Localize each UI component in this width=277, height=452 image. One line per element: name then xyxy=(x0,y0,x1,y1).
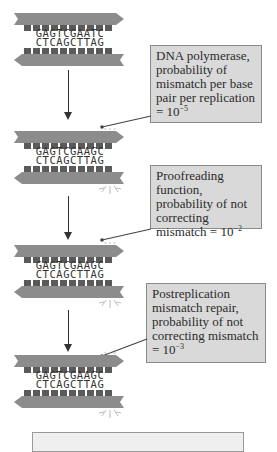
callout-proofreading: Proofreading function, probability of no… xyxy=(150,165,262,229)
callout-exponent: −5 xyxy=(180,104,189,113)
arrowhead-icon xyxy=(64,344,72,352)
flow-arrow-3 xyxy=(68,310,69,346)
arrowhead-icon xyxy=(64,232,72,240)
dna-duplex-original: GAGTCGAATC CTCAGCTTAG xyxy=(14,10,124,66)
callout-dna-polymerase: DNA polymerase, probability of mismatch … xyxy=(150,45,262,123)
dna-duplex-after-replication: GAGTCGAAGC CTCAGCTTAG xyxy=(14,128,124,184)
callout-text: DNA polymerase, probability of mismatch … xyxy=(156,48,255,119)
callout-mismatch-repair: Postreplication mismatch repair, probabi… xyxy=(146,283,266,363)
bottom-strand-sequence: CTCAGCTTAG xyxy=(24,269,116,279)
bottom-strand-sequence: CTCAGCTTAG xyxy=(24,379,116,389)
dna-duplex-after-proofreading: GAGTCGAAGC CTCAGCTTAG xyxy=(14,242,124,298)
dna-duplex-after-repair: GAGTCGAAGC CTCAGCTTAG xyxy=(14,352,124,408)
callout-exponent: −3 xyxy=(176,342,185,351)
flow-arrow-1 xyxy=(68,70,69,114)
callout-text: Postreplication mismatch repair, probabi… xyxy=(152,286,259,357)
flow-arrow-2 xyxy=(68,196,69,234)
bottom-strand-sequence: CTCAGCTTAG xyxy=(24,155,116,165)
callout-exponent: −2 xyxy=(233,224,242,233)
summary-box xyxy=(32,432,244,452)
bottom-strand-sequence: CTCAGCTTAG xyxy=(24,37,116,47)
arrowhead-icon xyxy=(64,112,72,120)
